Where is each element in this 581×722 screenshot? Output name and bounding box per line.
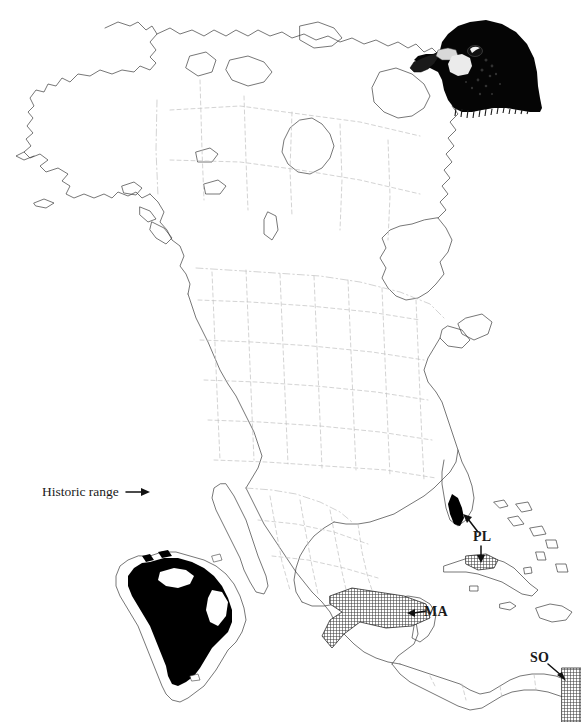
coastline-hudson-bay	[282, 118, 334, 174]
island-bahamas-1	[494, 500, 508, 508]
border-state-v6	[382, 288, 390, 476]
south-america-inset	[116, 550, 246, 702]
border-central-america-4	[534, 674, 536, 690]
lake-winnipeg	[264, 212, 278, 240]
lake-great-bear	[196, 148, 218, 162]
falcon-head-silhouette	[414, 20, 542, 112]
label-pl: PL	[473, 530, 492, 544]
border-central-america-1	[430, 676, 436, 688]
lake-great-slave	[204, 180, 226, 194]
coastline-victoria-island	[226, 56, 272, 86]
border-mexico-state-4	[358, 524, 374, 596]
coastline-gulf	[294, 522, 334, 602]
border-state-h5	[214, 460, 436, 478]
coastline-central-america	[400, 664, 576, 694]
arrow-historic-range-head	[141, 488, 150, 496]
border-state-v5	[348, 280, 356, 470]
island-lesser-antilles	[524, 567, 532, 574]
border-state-h1	[198, 300, 420, 320]
coastline-us-east	[334, 338, 458, 524]
coastline-labrador	[380, 218, 452, 300]
coastline-banks-island	[186, 52, 216, 76]
island-jamaica	[500, 602, 516, 610]
coastline-alaska-panhandle	[150, 194, 190, 294]
island-bahamas-2	[516, 502, 532, 512]
border-mexico-h1	[258, 520, 368, 544]
distribution-map-figure: Historic range PL MA SO	[0, 0, 581, 722]
current-range-patches	[318, 550, 581, 722]
falcon-cheek-patch	[448, 54, 472, 76]
island-bahamas-6	[536, 552, 546, 560]
label-ma: MA	[424, 605, 448, 619]
island-queen-charlotte	[140, 207, 156, 222]
border-us-canada	[196, 268, 444, 318]
map-canvas	[0, 0, 581, 722]
island-trinidad-inset	[212, 554, 222, 562]
island-bahamas-4	[530, 526, 546, 536]
border-mexico-state-3	[330, 510, 348, 598]
coastline-baffin-island	[372, 68, 430, 118]
coastline-nova-scotia	[440, 326, 470, 348]
map-landmasses	[16, 22, 581, 722]
current-range-so	[562, 668, 581, 722]
border-us-mexico	[246, 488, 352, 522]
historic-range-florida	[448, 494, 464, 526]
border-alaska-canada	[156, 100, 158, 196]
border-state-v3	[280, 274, 288, 464]
coastline-canada-arctic	[157, 28, 458, 218]
island-newfoundland	[458, 314, 492, 340]
label-historic-range: Historic range	[42, 485, 119, 499]
border-state-h2	[200, 340, 424, 360]
border-state-v7	[416, 300, 424, 480]
border-mexico-state-1	[270, 496, 290, 590]
label-so: SO	[530, 651, 549, 665]
border-state-h3	[204, 380, 428, 400]
island-bahamas-3	[508, 516, 524, 526]
falcon-head-illustration	[410, 20, 542, 118]
coastline-aleutians-east	[34, 199, 54, 208]
island-cayman	[470, 586, 478, 591]
island-kodiak	[122, 182, 142, 195]
border-canada-provinces-2	[244, 96, 248, 210]
border-state-v4	[314, 276, 322, 468]
coastline-alaska	[24, 22, 157, 198]
island-bahamas-5	[546, 540, 558, 548]
border-state-v2	[246, 270, 254, 460]
island-bahamas-7	[556, 564, 568, 572]
border-state-v1	[212, 272, 220, 460]
island-hispaniola	[536, 604, 572, 622]
border-canada-provinces-5	[388, 140, 390, 240]
border-canada-provinces-1	[200, 80, 204, 200]
border-canada-horizontal-2	[170, 160, 420, 194]
